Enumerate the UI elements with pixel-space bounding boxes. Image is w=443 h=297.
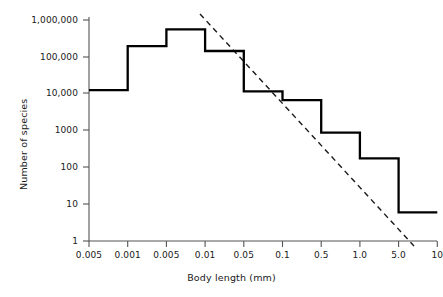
x-tick-label-6: 0.5 [314, 250, 329, 260]
y-tick-label-1000000: 1,000,000 [12, 15, 78, 25]
x-tick-label-9: 10 [431, 250, 443, 260]
x-tick-label-3: 0.01 [195, 250, 215, 260]
chart-plot-area [0, 0, 443, 297]
x-axis-ticks [89, 241, 437, 247]
y-axis-ticks [83, 20, 89, 241]
x-tick-label-0: 0.005 [76, 250, 102, 260]
x-tick-label-7: 1.0 [353, 250, 368, 260]
x-tick-label-5: 0.1 [275, 250, 290, 260]
x-tick-label-4: 0.05 [234, 250, 254, 260]
y-axis-title: Number of species [18, 99, 29, 190]
y-tick-label-100000: 100,000 [12, 52, 78, 62]
x-tick-label-1: 0.001 [115, 250, 141, 260]
y-tick-label-10000: 10,000 [12, 88, 78, 98]
y-tick-label-10: 10 [12, 199, 78, 209]
chart-figure: 1,000,000 100,000 10,000 1000 100 10 1 0… [0, 0, 443, 297]
species-step-line [89, 29, 437, 212]
x-tick-label-8: 5.0 [391, 250, 406, 260]
trend-line-dashed [200, 14, 414, 246]
x-axis-title: Body length (mm) [10, 272, 443, 283]
x-tick-label-2: 0.005 [153, 250, 179, 260]
y-tick-label-1: 1 [12, 236, 78, 246]
